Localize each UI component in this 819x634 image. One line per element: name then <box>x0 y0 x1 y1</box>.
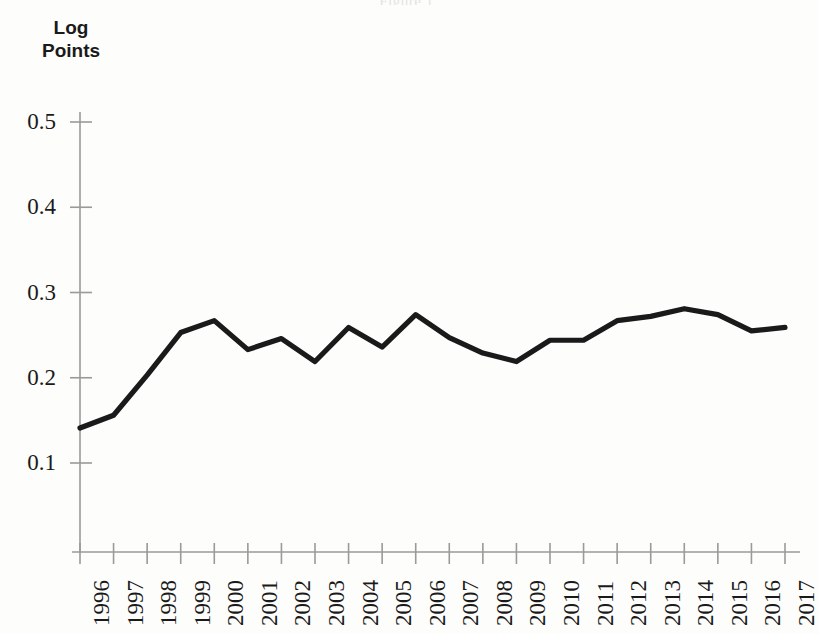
x-tick-label: 1997 <box>123 580 149 626</box>
x-tick-label: 2005 <box>391 580 417 626</box>
x-tick-label: 2010 <box>559 580 585 626</box>
y-tick-label: 0.4 <box>0 194 56 220</box>
data-series-line <box>80 309 785 428</box>
x-tick-label: 2000 <box>223 580 249 626</box>
x-tick-label: 2007 <box>458 580 484 626</box>
x-tick-label: 2016 <box>760 580 786 626</box>
x-tick-label: 2011 <box>593 581 619 626</box>
y-tick-label: 0.5 <box>0 109 56 135</box>
x-tick-label: 2014 <box>693 580 719 626</box>
y-tick-label: 0.1 <box>0 450 56 476</box>
x-tick-label: 2006 <box>425 580 451 626</box>
x-tick-label: 2003 <box>324 580 350 626</box>
x-axis-ticks <box>80 543 785 564</box>
x-tick-label: 2004 <box>358 580 384 626</box>
x-tick-label: 2008 <box>492 580 518 626</box>
x-tick-label: 2012 <box>626 580 652 626</box>
y-tick-label: 0.3 <box>0 280 56 306</box>
y-axis-ticks <box>70 122 92 463</box>
x-tick-label: 2017 <box>794 580 819 626</box>
x-tick-label: 1996 <box>89 580 115 626</box>
x-tick-label: 2009 <box>525 580 551 626</box>
x-tick-label: 2001 <box>257 580 283 626</box>
x-tick-label: 2002 <box>290 580 316 626</box>
x-tick-label: 2015 <box>727 580 753 626</box>
x-tick-label: 2013 <box>660 580 686 626</box>
x-tick-label: 1999 <box>190 580 216 626</box>
y-tick-label: 0.2 <box>0 365 56 391</box>
x-tick-label: 1998 <box>156 580 182 626</box>
